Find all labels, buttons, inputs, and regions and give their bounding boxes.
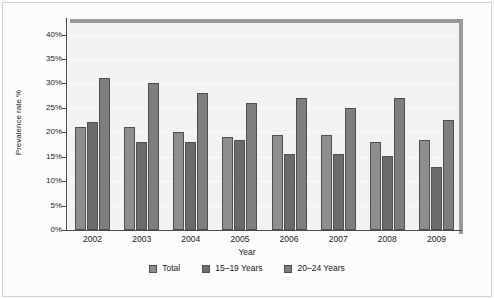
x-axis-title: Year [0, 247, 494, 257]
x-tick-label: 2008 [363, 234, 412, 244]
bar-group [215, 20, 264, 230]
y-tick-label: 10% [28, 177, 62, 185]
y-tick-label: 25% [28, 104, 62, 112]
bar [321, 135, 332, 230]
y-tick-label: 40% [28, 31, 62, 39]
bar [246, 103, 257, 230]
bar [443, 120, 454, 230]
legend-item[interactable]: Total [149, 264, 180, 273]
x-axis-tick-labels: 20022003200420052006200720082009 [68, 234, 461, 248]
bar-group [117, 20, 166, 230]
y-tick-label: 35% [28, 55, 62, 63]
y-tick-mark [62, 157, 67, 158]
y-tick-label: 20% [28, 128, 62, 136]
y-tick-mark [62, 132, 67, 133]
bar [185, 142, 196, 230]
bar [124, 127, 135, 230]
legend-label: Total [162, 264, 180, 273]
bar [234, 140, 245, 230]
legend-swatch-icon [202, 265, 210, 273]
chart-figure: 0%5%10%15%20%25%30%35%40% Prevalence rat… [0, 0, 494, 299]
y-tick-mark [62, 181, 67, 182]
y-tick-mark [62, 35, 67, 36]
bar [272, 135, 283, 230]
bar-group [68, 20, 117, 230]
y-tick-mark [62, 230, 67, 231]
y-tick-label: 15% [28, 153, 62, 161]
chart-legend: Total15–19 Years20–24 Years [0, 264, 494, 273]
bar [87, 122, 98, 230]
bar [148, 83, 159, 230]
y-tick-label: 5% [28, 202, 62, 210]
x-tick-label: 2004 [166, 234, 215, 244]
bar [136, 142, 147, 230]
x-tick-label: 2002 [68, 234, 117, 244]
bar [99, 78, 110, 230]
y-tick-label: 0% [28, 226, 62, 234]
bar [75, 127, 86, 230]
legend-item[interactable]: 15–19 Years [202, 264, 262, 273]
legend-label: 20–24 Years [297, 264, 344, 273]
bar-group [363, 20, 412, 230]
bar-group [314, 20, 363, 230]
legend-label: 15–19 Years [215, 264, 262, 273]
bar [284, 154, 295, 230]
x-tick-label: 2003 [117, 234, 166, 244]
legend-item[interactable]: 20–24 Years [284, 264, 344, 273]
y-tick-mark [62, 83, 67, 84]
bar [419, 140, 430, 230]
x-tick-label: 2007 [314, 234, 363, 244]
y-tick-mark [62, 59, 67, 60]
y-axis-line [66, 18, 67, 231]
bar [222, 137, 233, 230]
bar [197, 93, 208, 230]
bar [345, 108, 356, 230]
y-tick-mark [62, 206, 67, 207]
legend-swatch-icon [284, 265, 292, 273]
y-tick-mark [62, 108, 67, 109]
x-tick-label: 2009 [412, 234, 461, 244]
bar [370, 142, 381, 230]
y-axis-title: Prevalence rate % [14, 63, 23, 183]
bar [382, 156, 393, 230]
x-tick-label: 2005 [215, 234, 264, 244]
legend-swatch-icon [149, 265, 157, 273]
x-axis-line [66, 230, 462, 231]
bar [394, 98, 405, 230]
bar-group [412, 20, 461, 230]
bar-groups [68, 20, 461, 230]
bar [173, 132, 184, 230]
bar-group [166, 20, 215, 230]
bar [296, 98, 307, 230]
bar [431, 167, 442, 230]
x-tick-label: 2006 [265, 234, 314, 244]
bar [333, 154, 344, 230]
y-tick-label: 30% [28, 79, 62, 87]
bar-group [265, 20, 314, 230]
